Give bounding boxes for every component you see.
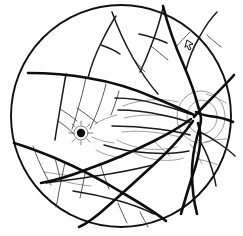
fundus-drawing (0, 0, 243, 236)
fundus-diagram-canvas (0, 0, 243, 236)
lesion-core (77, 129, 85, 137)
vessel-minor-10 (207, 35, 221, 47)
macular-lesion (69, 121, 93, 145)
